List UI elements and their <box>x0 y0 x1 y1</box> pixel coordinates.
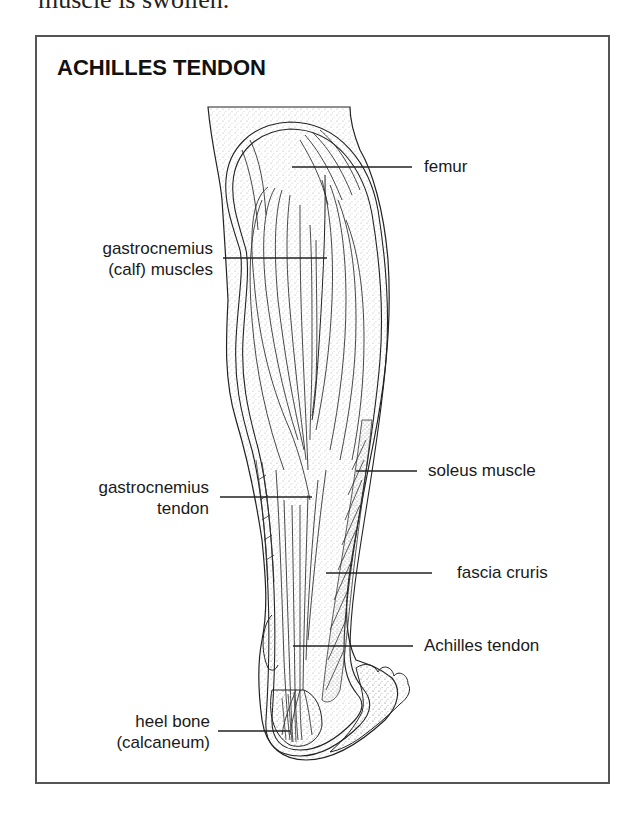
label-gastrocnemius-line1: gastrocnemius <box>102 238 213 259</box>
label-heel-bone-line1: heel bone <box>116 711 210 732</box>
label-fascia-cruris-text: fascia cruris <box>457 562 548 583</box>
label-gastrocnemius-tendon-line1: gastrocnemius <box>98 477 209 498</box>
label-fascia-cruris: fascia cruris <box>457 562 548 583</box>
label-femur-text: femur <box>424 156 467 177</box>
label-soleus-text: soleus muscle <box>428 460 536 481</box>
label-gastrocnemius-tendon-line2: tendon <box>98 498 209 519</box>
label-gastrocnemius-muscles: gastrocnemius (calf) muscles <box>102 238 213 280</box>
label-gastrocnemius-line2: (calf) muscles <box>102 259 213 280</box>
label-femur: femur <box>424 156 467 177</box>
label-heel-bone-line2: (calcaneum) <box>116 732 210 753</box>
label-achilles-tendon-text: Achilles tendon <box>424 635 539 656</box>
label-gastrocnemius-tendon: gastrocnemius tendon <box>98 477 209 519</box>
label-achilles-tendon: Achilles tendon <box>424 635 539 656</box>
label-soleus-muscle: soleus muscle <box>428 460 536 481</box>
leg-anatomy-illustration <box>0 0 638 816</box>
label-heel-bone: heel bone (calcaneum) <box>116 711 210 753</box>
